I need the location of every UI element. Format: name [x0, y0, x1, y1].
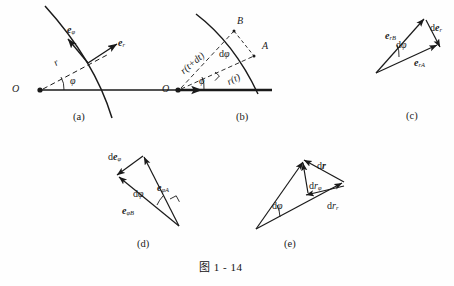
panel-d-e-phiB-label: eφB [122, 201, 134, 217]
panel-c-e-rA-label: erA [414, 53, 425, 69]
panel-e-dphi-label: dφ [272, 196, 283, 212]
panel-c-dphi-label: dφ [396, 35, 407, 51]
panel-d-dphi-arc [157, 196, 163, 205]
panel-b-point-a-dot [253, 55, 256, 58]
panel-b-dphi-chord [234, 31, 254, 56]
panel-d-e-phiA-label: eφA [157, 178, 169, 194]
panel-a-e-phi-label: eφ [67, 20, 75, 36]
panel-c-d-e-r-label: der [430, 18, 442, 34]
figure-caption: 图 1 - 14 [199, 262, 242, 273]
panel-c-e-rB-label: erB [385, 26, 396, 42]
panel-b-point-b-label: B [237, 16, 243, 26]
panel-b-angle-label: φ [199, 76, 205, 86]
panel-d-caption: (d) [137, 239, 149, 250]
panel-e-caption: (e) [284, 239, 296, 250]
figure-canvas [0, 0, 454, 286]
panel-e-d-r-r-label: drr [327, 196, 338, 212]
panel-d-d-e-phi-label: deφ [108, 147, 121, 163]
panel-e-d-r-phi-label: drφ [309, 176, 322, 192]
panel-e-graphics [256, 160, 344, 229]
panel-d-dphi-label: dφ [133, 184, 144, 200]
panel-a-e-r-label: er [118, 33, 125, 49]
panel-d-right-angle-mark [170, 196, 179, 202]
panel-b-point-a-label: A [262, 41, 268, 51]
panel-b-point-b-dot [233, 30, 236, 33]
panel-b-caption: (b) [236, 112, 248, 123]
panel-a-origin-label: O [12, 84, 19, 94]
figure-container: O r φ eφ er (a) O B A r(t+dt) r(t) φ dφ … [0, 0, 454, 286]
panel-c-caption: (c) [406, 111, 418, 122]
panel-a-graphics [37, 6, 202, 118]
panel-a-caption: (a) [73, 112, 85, 123]
panel-e-d-r-label: dr [317, 156, 326, 172]
panel-a-e-phi-arrow [68, 39, 88, 63]
panel-a-e-r-arrow [88, 44, 117, 63]
panel-a-angle-label: φ [70, 76, 76, 86]
panel-b-origin-label: O [162, 84, 169, 94]
panel-e-d-r-phi-arrow [303, 163, 308, 193]
panel-b-dphi-label: dφ [219, 44, 230, 60]
